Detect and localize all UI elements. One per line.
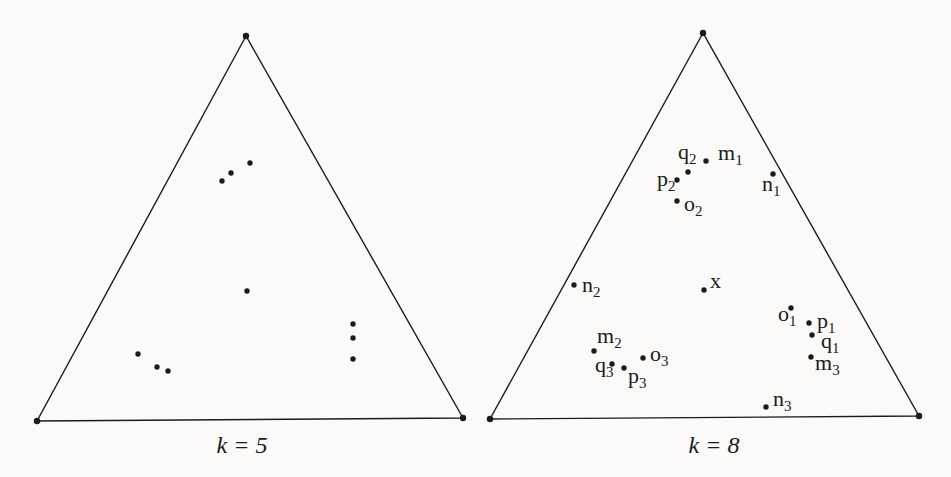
point-label-x: x bbox=[710, 268, 721, 293]
data-point-o1 bbox=[788, 305, 793, 310]
point-label-o2: o2 bbox=[684, 191, 703, 219]
data-point-q1 bbox=[809, 332, 814, 337]
data-point bbox=[154, 364, 159, 369]
data-point-p1 bbox=[806, 320, 811, 325]
triangle-vertex-dot bbox=[487, 416, 493, 422]
data-point-o2 bbox=[674, 198, 679, 203]
point-label-n1: n1 bbox=[762, 171, 781, 199]
data-point-m1 bbox=[703, 158, 708, 163]
triangle-vertex-dot bbox=[34, 418, 40, 424]
data-point bbox=[350, 321, 355, 326]
point-label-n2: n2 bbox=[582, 272, 601, 300]
triangle-outline bbox=[37, 36, 463, 421]
point-label-o3: o3 bbox=[650, 341, 669, 369]
data-point-n2 bbox=[571, 282, 576, 287]
point-label-p3: p3 bbox=[628, 363, 647, 391]
point-label-m1: m1 bbox=[718, 140, 743, 168]
triangle-vertex-dot bbox=[700, 30, 706, 36]
data-point bbox=[165, 368, 170, 373]
figure-svg: k = 5 q2m1p2n1o2n2xo1p1q1m3m2q3p3o3n3k =… bbox=[0, 0, 951, 477]
data-point-x bbox=[701, 287, 706, 292]
caption-k8: k = 8 bbox=[689, 432, 740, 458]
point-label-q2: q2 bbox=[678, 139, 697, 167]
figure: k = 5 q2m1p2n1o2n2xo1p1q1m3m2q3p3o3n3k =… bbox=[0, 0, 951, 477]
triangle-outline bbox=[490, 33, 919, 419]
point-label-n3: n3 bbox=[773, 386, 792, 414]
data-point-n3 bbox=[763, 404, 768, 409]
data-point bbox=[244, 288, 249, 293]
data-point-o3 bbox=[640, 355, 645, 360]
triangle-vertex-dot bbox=[916, 413, 922, 419]
data-point-m3 bbox=[808, 354, 813, 359]
point-label-p2: p2 bbox=[657, 166, 676, 194]
point-label-m2: m2 bbox=[597, 323, 622, 351]
triangle-vertex-dot bbox=[243, 33, 249, 39]
point-label-o1: o1 bbox=[778, 301, 797, 329]
data-point bbox=[350, 335, 355, 340]
data-point bbox=[350, 356, 355, 361]
caption-k5: k = 5 bbox=[217, 432, 268, 458]
point-label-q3: q3 bbox=[595, 352, 614, 380]
data-point bbox=[219, 178, 224, 183]
panel-k8: q2m1p2n1o2n2xo1p1q1m3m2q3p3o3n3k = 8 bbox=[487, 30, 922, 458]
data-point-p3 bbox=[621, 365, 626, 370]
data-point bbox=[247, 160, 252, 165]
triangle-vertex-dot bbox=[460, 415, 466, 421]
panel-k5: k = 5 bbox=[34, 33, 466, 458]
data-point-q2 bbox=[685, 169, 690, 174]
data-point bbox=[228, 170, 233, 175]
data-point bbox=[135, 351, 140, 356]
